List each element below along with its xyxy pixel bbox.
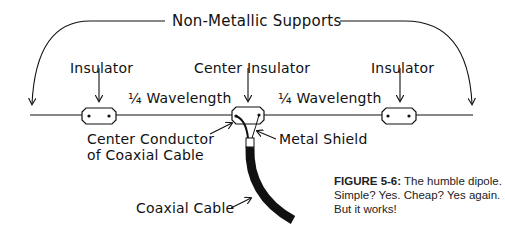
label-insulator-right: Insulator [371,60,434,76]
label-center-conductor-2: of Coaxial Cable [87,147,204,163]
figure-caption: FIGURE 5-6: The humble dipole. Simple? Y… [334,174,504,216]
figure-number: FIGURE 5-6: [334,175,401,187]
label-center-conductor-1: Center Conductor [87,131,214,147]
center-insulator-shape [232,107,264,138]
label-insulator-left: Insulator [70,60,133,76]
insulator-left-shape [82,108,116,124]
label-quarter-wavelength-right: ¼ Wavelength [278,90,381,106]
label-metal-shield: Metal Shield [279,131,368,147]
coaxial-cable-body [250,147,293,220]
label-center-insulator: Center Insulator [194,60,310,76]
label-quarter-wavelength-left: ¼ Wavelength [128,90,231,106]
insulator-right-shape [382,108,416,124]
coax-shield-end [246,138,254,147]
title-non-metallic-supports: Non-Metallic Supports [172,12,341,30]
label-coaxial-cable: Coaxial Cable [136,200,234,216]
